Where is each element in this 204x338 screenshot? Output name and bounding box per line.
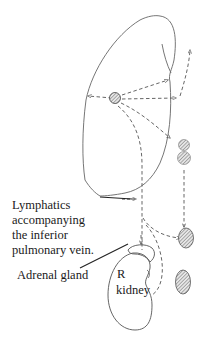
lymph-node-2: [178, 152, 191, 165]
label-lymphatics: Lymphatics accompanying the inferior pul…: [12, 198, 94, 258]
lymphatic-pathways: [88, 50, 190, 295]
label-lymphatics-line1: Lymphatics: [12, 198, 94, 213]
label-lymphatics-line4: pulmonary vein.: [12, 243, 94, 258]
lung-outline: [83, 16, 175, 196]
lymph-node-1: [179, 140, 190, 151]
label-lymphatics-line3: the inferior: [12, 228, 94, 243]
lymph-node-3: [179, 228, 194, 248]
label-lymphatics-line2: accompanying: [12, 213, 94, 228]
lymphatic-diagram: [0, 0, 204, 338]
label-adrenal-gland: Adrenal gland: [17, 268, 88, 283]
lymph-node-4: [176, 270, 191, 294]
label-kidney: kidney: [116, 283, 150, 298]
hilar-lymph-node: [110, 93, 121, 104]
label-kidney-r: R: [117, 267, 125, 282]
